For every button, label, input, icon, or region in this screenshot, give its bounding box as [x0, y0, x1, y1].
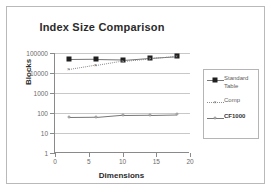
y-axis-label: 100: [37, 110, 48, 117]
x-axis-label: 5: [87, 158, 91, 165]
chart-title: Index Size Comparison: [7, 21, 197, 33]
gridline: [55, 93, 190, 94]
legend-item-standard-table[interactable]: Standard Table: [207, 75, 255, 90]
x-axis-tick: [156, 153, 157, 157]
data-point-comp: [121, 59, 125, 63]
x-axis-tick: [89, 153, 90, 157]
y-axis-label: 100000: [26, 50, 48, 57]
legend-label: Standard Table: [224, 75, 248, 90]
chart-legend: Standard TableCompCF1000: [203, 69, 259, 139]
series-line-comp: [69, 65, 96, 70]
x-axis-tick: [123, 153, 124, 157]
data-point-cf1000: [148, 113, 151, 116]
series-line-standard-table: [69, 59, 96, 60]
series-line-cf1000: [150, 114, 177, 116]
data-point-comp: [94, 63, 98, 67]
data-point-cf1000: [175, 112, 178, 115]
legend-item-comp[interactable]: Comp: [207, 97, 255, 106]
y-axis-tick: [50, 73, 55, 74]
gridline: [55, 133, 190, 134]
data-point-comp: [148, 56, 152, 60]
legend-label: CF1000: [224, 113, 245, 121]
x-axis-label: 15: [153, 158, 160, 165]
x-axis-tick: [55, 153, 56, 157]
x-axis-label: 10: [119, 158, 126, 165]
y-axis-label: 1000: [34, 90, 48, 97]
series-line-comp: [150, 56, 177, 59]
x-axis-title: Dimensions: [54, 171, 189, 180]
data-point-cf1000: [94, 116, 97, 119]
y-axis-tick: [50, 133, 55, 134]
y-axis-tick: [50, 113, 55, 114]
data-point-cf1000: [121, 113, 124, 116]
y-axis-label: 10000: [30, 70, 48, 77]
y-axis-label: 1: [44, 150, 48, 157]
legend-label: Comp: [224, 97, 240, 105]
x-axis-tick: [190, 153, 191, 157]
data-point-comp: [175, 54, 179, 58]
y-axis-tick: [50, 53, 55, 54]
series-line-cf1000: [69, 117, 96, 118]
data-point-comp: [67, 67, 71, 71]
series-line-comp: [96, 61, 123, 66]
legend-key-icon: [207, 76, 224, 84]
legend-key-icon: [207, 114, 224, 122]
data-point-cf1000: [67, 116, 70, 119]
y-axis-tick: [50, 93, 55, 94]
plot-area: 11010010001000010000005101520: [54, 53, 189, 153]
x-axis-label: 0: [53, 158, 57, 165]
x-axis-label: 20: [186, 158, 193, 165]
data-point-standard-table: [93, 57, 98, 62]
series-line-cf1000: [123, 115, 150, 116]
legend-item-cf1000[interactable]: CF1000: [207, 113, 255, 122]
data-point-standard-table: [66, 57, 71, 62]
gridline: [55, 53, 190, 54]
legend-key-icon: [207, 98, 224, 106]
gridline: [55, 73, 190, 74]
y-axis-label: 10: [41, 130, 48, 137]
series-line-cf1000: [96, 115, 123, 118]
chart-frame: Index Size Comparison Blocks 11010010001…: [6, 6, 265, 184]
